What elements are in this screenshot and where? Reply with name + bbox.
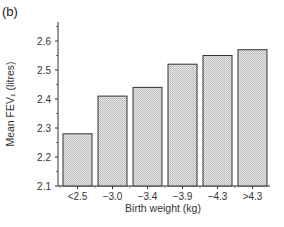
x-tick-label: −3.0 <box>103 191 123 202</box>
y-tick-label: 2.2 <box>37 152 51 163</box>
y-tick-label: 2.4 <box>37 94 51 105</box>
y-tick-label: 2.6 <box>37 36 51 47</box>
y-axis: 2.12.22.32.42.52.6 <box>37 22 58 192</box>
x-tick-label: >4.3 <box>243 191 263 202</box>
x-tick-label: <2.5 <box>68 191 88 202</box>
bar <box>238 50 267 186</box>
x-axis-title: Birth weight (kg) <box>125 202 201 214</box>
bars <box>63 50 267 186</box>
bar <box>133 87 162 186</box>
bar-chart: 2.12.22.32.42.52.6 <2.5−3.0−3.4−3.9−4.3>… <box>0 0 284 227</box>
y-tick-label: 2.3 <box>37 123 51 134</box>
bar <box>98 96 127 186</box>
y-axis-title: Mean FEV₁ (litres) <box>4 61 16 146</box>
bar <box>63 134 92 186</box>
x-axis: <2.5−3.0−3.4−3.9−4.3>4.3 <box>58 186 270 202</box>
x-tick-label: −4.3 <box>208 191 228 202</box>
x-tick-label: −3.4 <box>138 191 158 202</box>
y-tick-label: 2.1 <box>37 181 51 192</box>
x-tick-label: −3.9 <box>173 191 193 202</box>
bar <box>168 64 197 186</box>
bar <box>203 56 232 187</box>
y-tick-label: 2.5 <box>37 65 51 76</box>
